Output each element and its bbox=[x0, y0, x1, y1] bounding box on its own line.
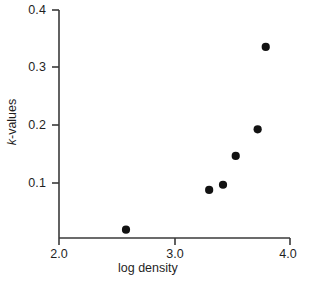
data-point bbox=[205, 186, 213, 194]
y-axis-label-italic-k: k bbox=[5, 139, 19, 145]
plot-canvas bbox=[0, 0, 309, 283]
y-tick-label-0.3: 0.3 bbox=[12, 60, 46, 74]
y-tick-label-0.1: 0.1 bbox=[12, 176, 46, 190]
data-point-group bbox=[122, 43, 270, 234]
y-axis-label-rest: -values bbox=[5, 99, 19, 139]
data-point bbox=[254, 125, 262, 133]
data-point bbox=[122, 226, 130, 234]
data-point bbox=[262, 43, 270, 51]
x-axis-label: log density bbox=[118, 261, 238, 275]
x-tick-label-4.0: 4.0 bbox=[268, 247, 308, 261]
x-tick-label-2.0: 2.0 bbox=[39, 247, 79, 261]
y-tick-label-0.4: 0.4 bbox=[12, 3, 46, 17]
data-point bbox=[232, 152, 240, 160]
scatter-plot-figure: 0.4 0.3 0.2 0.1 2.0 3.0 4.0 k-values log… bbox=[0, 0, 309, 283]
y-axis-label: k-values bbox=[5, 87, 19, 157]
data-point bbox=[219, 181, 227, 189]
x-tick-label-3.0: 3.0 bbox=[155, 247, 195, 261]
